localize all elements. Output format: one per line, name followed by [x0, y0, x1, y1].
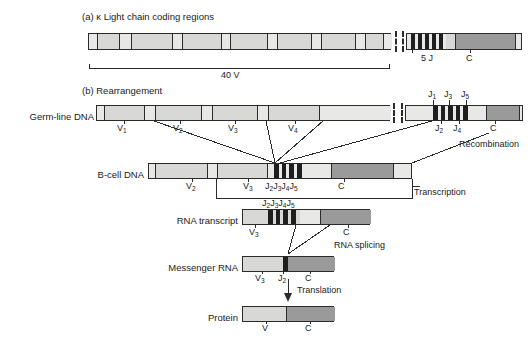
germline-v2-sub: 2: [179, 127, 183, 134]
mrna-j2-base: J: [278, 273, 283, 283]
germline-gap-dashes-right: [401, 103, 403, 123]
mrna-c-label: C: [305, 274, 312, 283]
panel-a-j-c-bar: [406, 33, 522, 50]
panel-a-title: (a) κ Light chain coding regions: [82, 12, 214, 22]
splicing-connector-right: [288, 225, 330, 254]
row-label-messenger-rna: Messenger RNA: [140, 263, 238, 273]
mrna-j2-label: J2: [278, 274, 286, 283]
germline-j5-base: J: [461, 89, 466, 99]
bcell-v3-label: V3: [243, 182, 253, 191]
panel-a-c-label: C: [466, 54, 473, 63]
germline-v3-label: V3: [228, 124, 238, 133]
bcell-v2-sub: 2: [192, 185, 196, 192]
transcript-v3-label: V3: [249, 228, 259, 237]
row-label-protein: Protein: [170, 313, 238, 323]
germline-v1-sub: 1: [123, 127, 127, 134]
germline-j1-sub: 1: [433, 93, 437, 100]
translation-label: Translation: [297, 286, 341, 295]
bcell-c-label: C: [338, 182, 345, 191]
panel-a-5j-label: 5 J: [421, 54, 433, 63]
germline-j-c-bar: [405, 105, 523, 121]
germline-gap-dashes-left: [393, 103, 395, 123]
germline-j5-sub: 5: [466, 93, 470, 100]
recombination-connector-gap: [275, 121, 323, 163]
protein-bar: [242, 306, 334, 322]
transcript-c-label: C: [343, 228, 350, 237]
germline-v3-sub: 3: [234, 127, 238, 134]
splicing-connector-left: [288, 225, 296, 254]
panel-a-40v-bracket: [89, 64, 389, 68]
germline-v2-label: V2: [173, 124, 183, 133]
germline-v4-label: V4: [288, 124, 298, 133]
germline-j3-label: J3: [444, 90, 452, 99]
protein-v-label: V: [262, 324, 268, 333]
transcription-label: Transcription: [414, 188, 466, 197]
germline-j3-sub: 3: [449, 93, 453, 100]
germline-j2-sub: 2: [440, 127, 444, 134]
messenger-rna-bar: [242, 256, 334, 272]
bcell-v3-sub: 3: [249, 185, 253, 192]
germline-j4-sub: 4: [458, 127, 462, 134]
bcell-j-group-label: J2J3J4J5: [265, 182, 298, 191]
figure-canvas: (a) κ Light chain coding regions: [0, 0, 528, 345]
germline-v1-label: V1: [117, 124, 127, 133]
panel-b-title: (b) Rearrangement: [82, 86, 162, 96]
panel-a-v-region-bar: [88, 33, 391, 50]
row-label-bcell-dna: B-cell DNA: [58, 170, 144, 180]
germline-j2-label: J2: [435, 124, 443, 133]
recombination-connector-v4: [266, 121, 275, 163]
translation-arrow-head: [284, 293, 292, 302]
germline-v4-sub: 4: [294, 127, 298, 134]
transcript-j-group-top-label: J2J3J4J5: [262, 199, 295, 208]
germline-j2-base: J: [435, 123, 440, 133]
recombination-label: Recombination: [459, 140, 519, 149]
germline-j5-label: J5: [461, 90, 469, 99]
germline-j4-label: J4: [453, 124, 461, 133]
germline-j1-label: J1: [428, 90, 436, 99]
bcell-v2-label: V2: [186, 182, 196, 191]
germline-j1-base: J: [428, 89, 433, 99]
panel-a-gap-dashes-right: [402, 31, 404, 52]
panel-a-gap-dashes-left: [395, 31, 397, 52]
germline-j3-base: J: [444, 89, 449, 99]
recombination-connector-j: [280, 121, 432, 163]
panel-a-40v-label: 40 V: [221, 71, 240, 80]
mrna-v3-label: V3: [255, 274, 265, 283]
mrna-j2-sub: 2: [283, 277, 287, 284]
germline-v-region-bar: [96, 105, 390, 121]
protein-c-label: C: [305, 324, 312, 333]
bcell-dna-bar: [148, 163, 412, 179]
germline-j4-base: J: [453, 123, 458, 133]
germline-c-label: C: [490, 124, 497, 133]
row-label-rna-transcript: RNA transcript: [146, 216, 238, 226]
transcript-v3-sub: 3: [255, 231, 259, 238]
rna-transcript-bar: [242, 209, 370, 225]
row-label-germline-dna: Germ-line DNA: [8, 112, 94, 122]
rna-splicing-label: RNA splicing: [334, 241, 385, 250]
mrna-v3-sub: 3: [261, 277, 265, 284]
